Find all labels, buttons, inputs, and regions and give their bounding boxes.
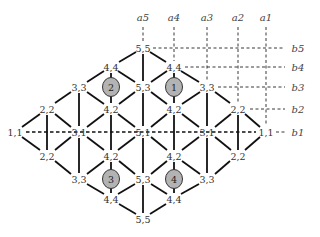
node-3-3-top-right: 3,3	[199, 82, 214, 93]
node-2-2-bottom-left: 2,2	[39, 151, 54, 162]
node-3-1-right: 3,1	[199, 127, 214, 138]
label-a3: a3	[201, 12, 213, 23]
node-5-5-bottom: 5,5	[135, 214, 150, 225]
label-a4: a4	[168, 12, 180, 23]
node-5-5-top: 5,5	[135, 43, 150, 54]
node-4-4-bottom-left: 4,4	[103, 194, 118, 205]
a-reference-lines	[143, 27, 266, 126]
node-3-3-bottom-right: 3,3	[199, 174, 214, 185]
label-a1: a1	[260, 12, 272, 23]
svg-text:3: 3	[108, 174, 114, 185]
node-2-2-top-left: 2,2	[39, 104, 54, 115]
token-4: 4	[166, 170, 183, 189]
node-3-1-left: 3,1	[71, 127, 86, 138]
svg-text:2: 2	[108, 82, 114, 93]
token-2: 2	[103, 78, 120, 97]
node-4-2-top-left: 4,2	[103, 104, 118, 115]
label-a5: a5	[137, 12, 149, 23]
node-2-2-bottom-right: 2,2	[230, 151, 245, 162]
node-4-2-top-right: 4,2	[166, 104, 181, 115]
node-4-4-bottom-right: 4,4	[166, 194, 181, 205]
label-a2: a2	[232, 12, 244, 23]
token-3: 3	[103, 170, 120, 189]
label-b5: b5	[292, 43, 305, 54]
node-5-3-bottom: 5,3	[135, 174, 150, 185]
node-5-3-top: 5,3	[135, 82, 150, 93]
node-4-2-bottom-right: 4,2	[166, 151, 181, 162]
svg-text:1: 1	[171, 82, 177, 93]
node-3-3-bottom-left: 3,3	[71, 174, 86, 185]
token-1: 1	[166, 78, 183, 97]
b-reference-lines	[26, 48, 285, 132]
node-4-2-bottom-left: 4,2	[103, 151, 118, 162]
node-2-2-top-right: 2,2	[230, 104, 245, 115]
node-1-1-right: 1,1	[258, 127, 273, 138]
lattice-diagram: 1 2 3 4 5,5 4,4 4,4 3,3 5,3 3,3 2,2 4,2 …	[0, 0, 320, 237]
node-4-4-top-left: 4,4	[103, 62, 118, 73]
node-4-4-top-right: 4,4	[166, 62, 181, 73]
label-b1: b1	[292, 127, 305, 138]
node-5-1-center: 5,1	[135, 127, 150, 138]
label-b4: b4	[292, 62, 305, 73]
label-b2: b2	[292, 104, 305, 115]
node-1-1-left: 1,1	[7, 127, 22, 138]
svg-text:4: 4	[171, 174, 177, 185]
node-3-3-top-left: 3,3	[71, 82, 86, 93]
label-b3: b3	[292, 82, 305, 93]
